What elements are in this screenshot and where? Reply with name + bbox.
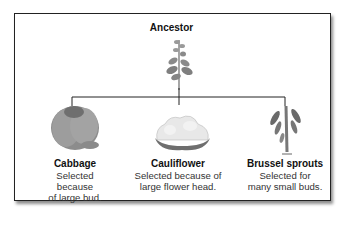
cabbage-name: Cabbage	[40, 158, 110, 169]
tree-connectors	[72, 88, 285, 106]
brussel-sprouts-icon	[268, 106, 302, 154]
brussel-sprouts-desc-2: many small buds.	[238, 181, 332, 192]
brussel-sprouts-name: Brussel sprouts	[238, 158, 332, 169]
cauliflower-node: Cauliflower Selected because of large fl…	[128, 158, 228, 192]
cauliflower-name: Cauliflower	[128, 158, 228, 169]
cabbage-icon	[51, 106, 99, 150]
ancestor-plant-icon	[165, 40, 194, 90]
cabbage-node: Cabbage Selected because of large bud.	[40, 158, 110, 203]
cauliflower-desc-1: Selected because of	[128, 170, 228, 181]
cabbage-desc-1: Selected because	[40, 170, 110, 192]
brussel-sprouts-desc-1: Selected for	[238, 170, 332, 181]
cabbage-desc-2: of large bud.	[40, 192, 110, 203]
cauliflower-icon	[155, 116, 210, 150]
brussel-sprouts-node: Brussel sprouts Selected for many small …	[238, 158, 332, 192]
cauliflower-desc-2: large flower head.	[128, 181, 228, 192]
